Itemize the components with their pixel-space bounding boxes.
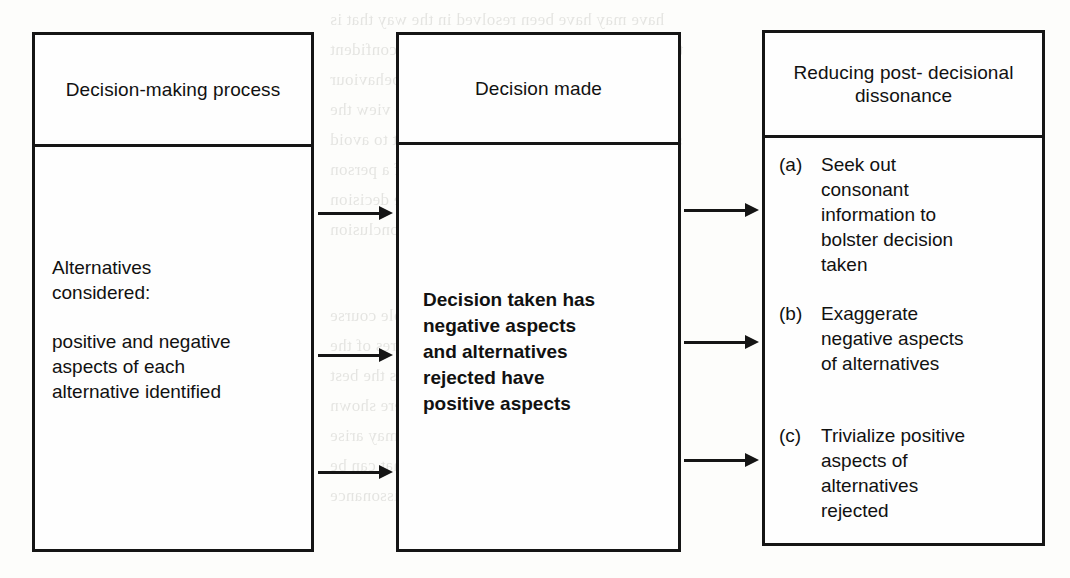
list-item-marker: (a) [779, 152, 821, 177]
paragraph-positive-negative-aspects: positive and negative aspects of each al… [52, 329, 231, 404]
list-item: (c) Trivialize positive aspects of alter… [779, 423, 1034, 523]
arrow-right-icon [318, 354, 380, 357]
paragraph-decision-taken: Decision taken has negative aspects and … [423, 287, 595, 417]
box-reducing-post-decisional-dissonance: Reducing post- decisional dissonance (a)… [762, 30, 1045, 546]
flow-diagram: Decision-making process Alternatives con… [0, 0, 1070, 578]
list-item-text: Exaggerate negative aspects of alternati… [821, 301, 1034, 376]
box-decision-made: Decision made Decision taken has negativ… [396, 32, 681, 552]
box-decision-making-process: Decision-making process Alternatives con… [32, 32, 314, 552]
list-item-marker: (b) [779, 301, 821, 326]
arrow-right-icon [684, 459, 746, 462]
box-header-label: Decision made [475, 77, 602, 100]
box-body-decision-made: Decision taken has negative aspects and … [399, 145, 678, 549]
arrow-right-icon [684, 209, 746, 212]
arrow-right-icon [318, 212, 380, 215]
list-item-text: Seek out consonant information to bolste… [821, 152, 1034, 277]
box-header-reducing-dissonance: Reducing post- decisional dissonance [765, 33, 1042, 138]
list-item-text: Trivialize positive aspects of alternati… [821, 423, 1034, 523]
arrow-right-icon [684, 341, 746, 344]
list-item: (b) Exaggerate negative aspects of alter… [779, 301, 1034, 376]
list-item-marker: (c) [779, 423, 821, 448]
arrow-right-icon [318, 471, 380, 474]
box-header-decision-making-process: Decision-making process [35, 35, 311, 147]
box-body-decision-making-process: Alternatives considered: positive and ne… [35, 147, 311, 549]
box-header-decision-made: Decision made [399, 35, 678, 145]
list-item: (a) Seek out consonant information to bo… [779, 152, 1034, 277]
box-header-label: Decision-making process [66, 78, 281, 101]
paragraph-alternatives-considered: Alternatives considered: [52, 255, 151, 305]
box-header-label: Reducing post- decisional dissonance [765, 61, 1042, 107]
box-body-reducing-dissonance: (a) Seek out consonant information to bo… [765, 138, 1042, 543]
